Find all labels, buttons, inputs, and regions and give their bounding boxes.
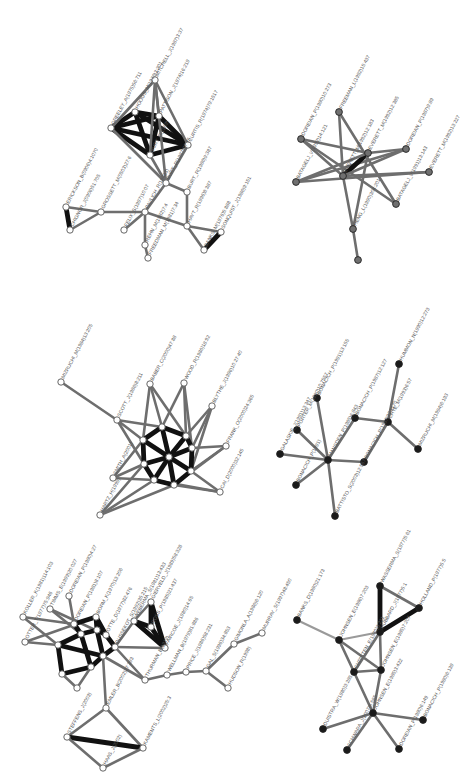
node-label: MIZRUCHI_M(1994)6:193 — [417, 392, 450, 447]
graph-node — [64, 734, 70, 740]
graph-node — [74, 685, 80, 691]
graph-node — [132, 109, 138, 115]
graph-node — [59, 671, 65, 677]
node-label: BATTISTO_S(2003)12:567 — [334, 458, 367, 514]
graph-edge — [191, 406, 212, 471]
edge-layer — [23, 80, 429, 768]
node-label: EMLER_B(2002)27:393 — [105, 656, 135, 706]
graph-edge — [143, 384, 150, 440]
graph-node — [55, 642, 61, 648]
node-label: MURRAY_S(1997)48:450 — [261, 577, 293, 630]
node-label: HOLLAND_P(1977)5:5 — [418, 557, 447, 605]
graph-node — [88, 664, 94, 670]
graph-node — [103, 632, 109, 638]
graph-node — [47, 606, 53, 612]
graph-edge — [206, 671, 228, 688]
node-label: BABER_C(2000)47:88 — [149, 334, 178, 381]
graph-node — [171, 482, 177, 488]
graph-node — [184, 189, 190, 195]
node-label: CHIGNOR_J(0906)51:705 — [69, 173, 102, 228]
node-label: BONACICH_P(1991)13:155 — [316, 337, 351, 395]
graph-node — [188, 468, 194, 474]
node-label: DOREIAN_P(1987)9:89 — [405, 97, 435, 147]
graph-node — [148, 624, 154, 630]
graph-node — [100, 653, 106, 659]
graph-node — [203, 668, 209, 674]
graph-edge — [58, 634, 81, 645]
node-label: BLYTHE_J(1996)10:27:40 — [211, 349, 244, 403]
graph-node — [166, 454, 172, 460]
graph-node — [94, 627, 100, 633]
graph-node — [98, 209, 104, 215]
graph-node — [20, 614, 26, 620]
graph-node — [58, 379, 64, 385]
graph-node — [217, 489, 223, 495]
graph-node — [140, 745, 146, 751]
node-label: EVERETT_M(1992)13:227 — [428, 114, 461, 170]
node-label: FRANK_O(2000)24:365 — [225, 393, 255, 443]
graph-node — [140, 437, 146, 443]
graph-node — [63, 204, 69, 210]
node-label: KAMENTS_L(2002)25:3 — [142, 695, 173, 746]
graph-node — [355, 257, 362, 264]
node-label: JOHNSEN_E(1986)7:203 — [338, 584, 370, 637]
node-label: GALASKIE_J(1991)13:347 — [279, 396, 312, 452]
graph-node — [141, 461, 147, 467]
graph-edge — [192, 446, 226, 448]
graph-node — [108, 125, 114, 131]
node-label: SCOTT_J(1986)8:211 — [116, 371, 144, 417]
graph-node — [142, 209, 148, 215]
graph-node — [148, 599, 154, 605]
network-figure: ERICKSON_B(0906)4:1070CHIGNOR_J(0906)51:… — [0, 0, 468, 780]
graph-node — [156, 113, 162, 119]
node-label: WASSERMA_S(1977)5:61 — [379, 528, 412, 583]
graph-node — [209, 403, 215, 409]
graph-node — [223, 443, 229, 449]
graph-node — [218, 229, 224, 235]
graph-node — [112, 644, 118, 650]
graph-node — [66, 593, 72, 599]
node-label: BONACICH_P(1980)6:139 — [422, 662, 455, 718]
node-label: GROSSETT_M(0503)27:6 — [100, 155, 133, 210]
node-label: WOOD_R(1986)18:92 — [183, 334, 212, 381]
graph-edge — [58, 645, 62, 674]
graph-node — [231, 641, 237, 647]
node-label: DUISTRA_W(1980)3:285 — [322, 674, 354, 727]
graph-node — [22, 639, 28, 645]
graph-node — [147, 381, 153, 387]
graph-node — [71, 621, 77, 627]
node-label: WELLMAN_B(1979)81:886 — [166, 616, 200, 673]
node-label: BANKS_D(1980)21:173 — [296, 568, 326, 618]
node-label: HUMMON_N(1990)12:273 — [398, 306, 431, 361]
graph-node — [103, 705, 109, 711]
graph-node — [189, 445, 195, 451]
graph-edge — [58, 645, 103, 656]
node-label: FREEMAN_L(1992)15:437 — [338, 54, 371, 110]
graph-node — [181, 380, 187, 386]
graph-node — [114, 417, 120, 423]
node-label: BONACICH_P(1987)92:1170 — [363, 399, 399, 459]
graph-node — [225, 685, 231, 691]
graph-edge — [354, 670, 381, 672]
graph-node — [183, 433, 189, 439]
graph-edge — [61, 382, 117, 420]
node-label: CURTIS_R(1974)79:1517 — [187, 89, 219, 143]
graph-node — [142, 242, 148, 248]
graph-node — [201, 247, 207, 253]
graph-node — [147, 152, 153, 158]
node-label: HUDSON_R(1998) — [227, 645, 252, 686]
graph-node — [184, 223, 190, 229]
graph-node — [121, 227, 127, 233]
graph-edge — [388, 422, 418, 449]
graph-node — [159, 424, 165, 430]
graph-node — [183, 669, 189, 675]
network-graphs-canvas: ERICKSON_B(0906)4:1070CHIGNOR_J(0906)51:… — [0, 0, 468, 780]
graph-edge — [297, 620, 339, 640]
graph-edge — [280, 454, 328, 460]
graph-node — [151, 477, 157, 483]
graph-edge — [343, 176, 353, 229]
graph-node — [259, 630, 265, 636]
graph-node — [142, 677, 148, 683]
graph-node — [67, 227, 73, 233]
graph-edge — [373, 713, 399, 749]
